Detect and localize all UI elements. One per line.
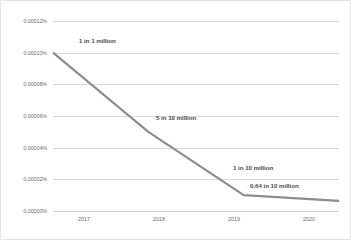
data-label-2018: 5 in 10 million <box>156 114 196 121</box>
y-axis-tick-label: 0.00012% <box>3 18 47 24</box>
y-axis-tick-label: 0.00006% <box>3 113 47 119</box>
x-axis-tick-label: 2020 <box>303 216 315 222</box>
y-axis-tick-label: 0.00000% <box>3 208 47 214</box>
x-axis-tick-label: 2019 <box>228 216 240 222</box>
y-axis-tick-label: 0.00004% <box>3 145 47 151</box>
x-axis-tick-label: 2017 <box>78 216 90 222</box>
line-chart: 0.00012% 0.00010% 0.00008% 0.00006% 0.00… <box>0 0 351 240</box>
data-label-2017: 1 in 1 million <box>79 37 116 44</box>
x-axis-baseline <box>53 211 339 212</box>
y-axis-tick-label: 0.00008% <box>3 81 47 87</box>
y-axis-tick-label: 0.00010% <box>3 50 47 56</box>
y-axis-tick-label: 0.00002% <box>3 176 47 182</box>
x-axis-tick-label: 2018 <box>153 216 165 222</box>
data-label-2019: 1 in 10 million <box>233 164 273 171</box>
data-label-2020: 0.64 in 10 million <box>250 182 299 189</box>
